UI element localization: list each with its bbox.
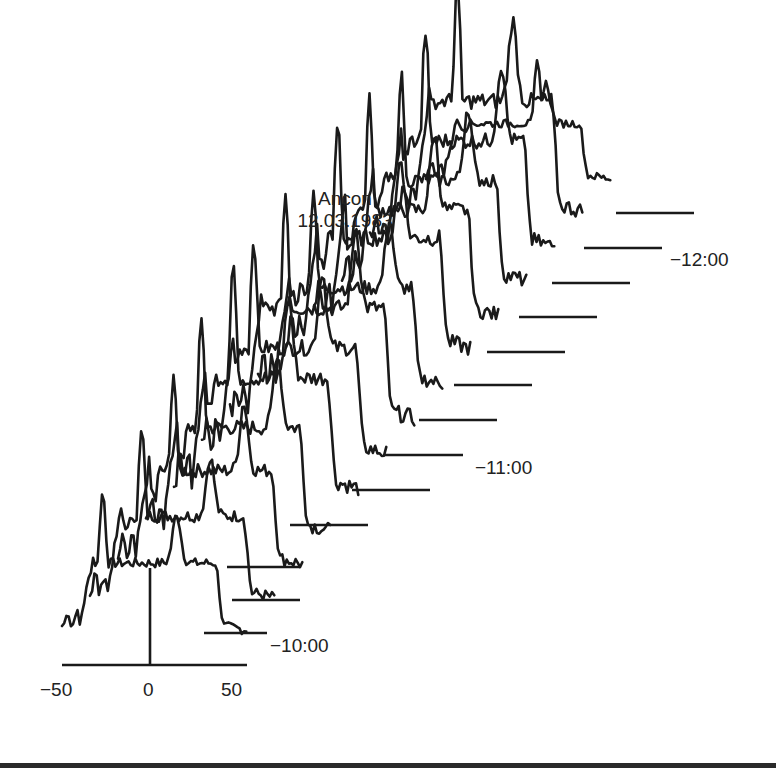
x-tick-50: 50 [221, 680, 242, 699]
title-date: 12.03.1983 [270, 210, 420, 232]
baseline-group [204, 213, 694, 633]
trace-line [286, 128, 470, 355]
x-tick-0: 0 [143, 680, 154, 699]
time-marker-11: −11:00 [475, 458, 532, 477]
x-tick-minus50: −50 [40, 680, 72, 699]
bottom-rule [0, 763, 776, 768]
title-station: Ancon [270, 188, 420, 210]
chart-title: Ancon 12.03.1983 [270, 188, 420, 232]
time-marker-12: −12:00 [670, 250, 729, 269]
time-marker-10: −10:00 [270, 636, 329, 655]
waterfall-chart [0, 0, 776, 777]
